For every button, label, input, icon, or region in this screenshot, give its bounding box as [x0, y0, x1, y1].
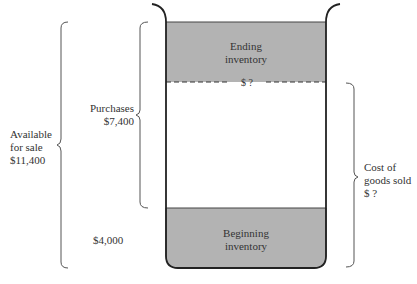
purchases-line1: Purchases [84, 102, 134, 115]
cogs-label: Cost of goods sold $ ? [364, 161, 411, 200]
purchases-value: $7,400 [84, 115, 134, 128]
beginning-inventory-line2: inventory [206, 240, 286, 253]
available-value: $11,400 [10, 154, 52, 167]
beginning-inventory-line1: Beginning [206, 227, 286, 240]
available-for-sale-label: Available for sale $11,400 [10, 128, 52, 167]
ending-value-label: $ ? [229, 76, 265, 89]
available-line1: Available [10, 128, 52, 141]
available-line2: for sale [10, 141, 52, 154]
ending-inventory-line1: Ending [206, 40, 286, 53]
cogs-value: $ ? [364, 187, 411, 200]
ending-inventory-line2: inventory [206, 53, 286, 66]
beginning-inventory-label: Beginning inventory [206, 227, 286, 253]
cogs-line1: Cost of [364, 161, 411, 174]
purchases-brace [136, 22, 148, 208]
cogs-brace [346, 83, 358, 267]
ending-inventory-label: Ending inventory [206, 40, 286, 66]
cogs-line2: goods sold [364, 174, 411, 187]
purchases-label: Purchases $7,400 [84, 102, 134, 128]
beginning-value-label: $4,000 [93, 234, 123, 247]
available-brace [57, 22, 68, 268]
